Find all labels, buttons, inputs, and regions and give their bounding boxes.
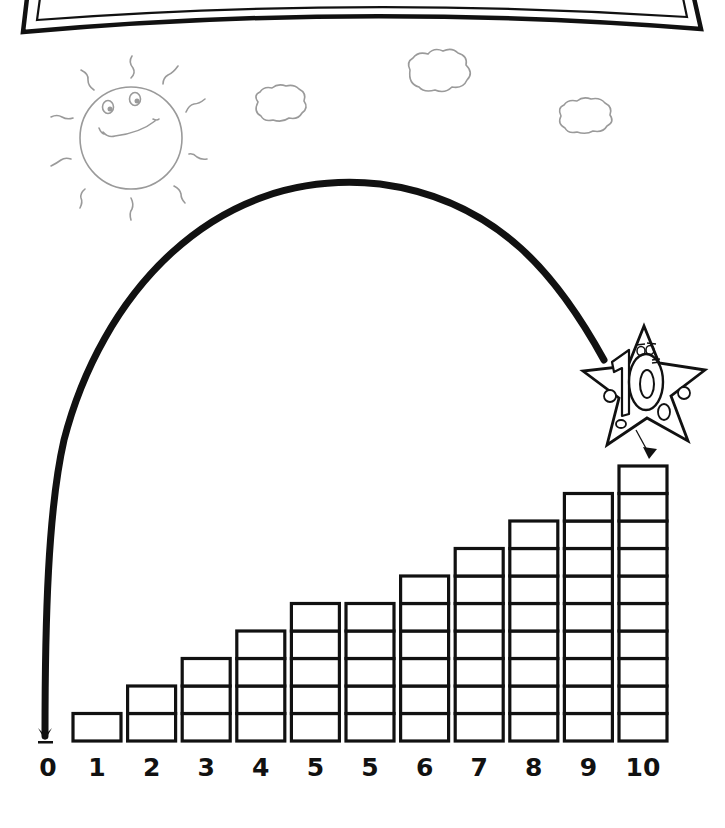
block	[346, 631, 394, 659]
block	[510, 686, 558, 714]
block	[564, 686, 612, 714]
banner-outer-border	[23, 0, 701, 32]
block	[510, 659, 558, 687]
block	[237, 714, 285, 742]
number-label: 2	[143, 753, 160, 782]
block-column	[73, 714, 121, 742]
block	[455, 631, 503, 659]
block-column	[401, 576, 449, 741]
block-column	[291, 604, 339, 742]
block	[510, 549, 558, 577]
number-label: 0	[39, 753, 56, 782]
block	[455, 549, 503, 577]
block	[291, 714, 339, 742]
cloud-icon	[560, 98, 612, 133]
block-column	[237, 631, 285, 741]
block	[401, 631, 449, 659]
star-ten-mascot	[583, 326, 705, 459]
sun-rays	[51, 56, 207, 220]
block	[619, 686, 667, 714]
block	[346, 686, 394, 714]
block	[619, 631, 667, 659]
block	[564, 631, 612, 659]
block-column	[346, 604, 394, 742]
number-label: 5	[307, 753, 324, 782]
block	[128, 686, 176, 714]
block	[564, 494, 612, 522]
block	[291, 604, 339, 632]
block	[510, 714, 558, 742]
block	[619, 576, 667, 604]
block	[619, 714, 667, 742]
counting-worksheet: 0123455678910	[0, 0, 725, 828]
block-column	[182, 659, 230, 742]
number-label: 3	[197, 753, 214, 782]
number-labels: 0123455678910	[39, 753, 660, 782]
block	[510, 631, 558, 659]
block	[510, 576, 558, 604]
block	[291, 631, 339, 659]
block	[564, 549, 612, 577]
number-label: 6	[416, 753, 433, 782]
block	[564, 714, 612, 742]
block	[455, 659, 503, 687]
block	[455, 576, 503, 604]
block	[619, 466, 667, 494]
block	[346, 604, 394, 632]
number-label: 7	[470, 753, 487, 782]
block	[182, 659, 230, 687]
number-label: 10	[626, 753, 661, 782]
block	[128, 714, 176, 742]
block	[401, 604, 449, 632]
block	[237, 659, 285, 687]
block-column	[128, 686, 176, 741]
block-column	[455, 549, 503, 742]
number-label: 1	[88, 753, 105, 782]
title-banner-frame	[23, 0, 701, 32]
block	[510, 521, 558, 549]
block	[619, 604, 667, 632]
block	[291, 686, 339, 714]
block	[619, 494, 667, 522]
block	[455, 604, 503, 632]
block	[346, 659, 394, 687]
sun-icon	[51, 56, 207, 220]
clouds	[256, 49, 612, 133]
block	[73, 714, 121, 742]
cloud-icon	[256, 85, 306, 121]
number-label: 5	[361, 753, 378, 782]
number-label: 8	[525, 753, 542, 782]
cloud-icon	[409, 49, 471, 91]
block	[564, 576, 612, 604]
block	[401, 686, 449, 714]
block	[401, 576, 449, 604]
number-label: 4	[252, 753, 269, 782]
block	[564, 659, 612, 687]
block	[564, 521, 612, 549]
block	[510, 604, 558, 632]
block-column	[564, 494, 612, 742]
sun-smile	[99, 119, 159, 137]
block	[237, 686, 285, 714]
zero-baseline-tick	[38, 741, 53, 744]
block	[182, 686, 230, 714]
block	[455, 686, 503, 714]
block	[619, 521, 667, 549]
block-column	[619, 466, 667, 741]
block	[237, 631, 285, 659]
block	[564, 604, 612, 632]
block	[182, 714, 230, 742]
block	[401, 659, 449, 687]
block	[401, 714, 449, 742]
block	[291, 659, 339, 687]
block	[619, 659, 667, 687]
block-column	[510, 521, 558, 741]
block	[619, 549, 667, 577]
sun-eyes	[103, 93, 141, 114]
number-label: 9	[580, 753, 597, 782]
block-columns	[73, 466, 667, 741]
block	[346, 714, 394, 742]
block	[455, 714, 503, 742]
